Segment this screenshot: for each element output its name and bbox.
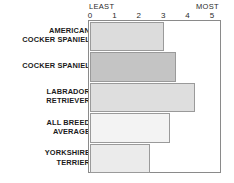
category-label-3: ALL BREEDAVERAGE <box>0 118 90 137</box>
category-label-line: AVERAGE <box>0 127 90 137</box>
category-label-1: COCKER SPANIEL <box>0 61 90 71</box>
category-label-line: TERRIER <box>0 158 90 168</box>
category-label-2: LABRADORRETRIEVER <box>0 87 90 106</box>
bar-3 <box>90 113 170 143</box>
x-tick-2: 2 <box>133 11 145 20</box>
x-tick-3: 3 <box>157 11 169 20</box>
bar-chart: LEAST MOST 012345 AMERICANCOCKER SPANIEL… <box>0 0 234 183</box>
x-tick-5: 5 <box>206 11 218 20</box>
category-label-line: ALL BREED <box>0 118 90 128</box>
category-label-line: LABRADOR <box>0 87 90 97</box>
bars-container <box>89 21 220 172</box>
x-tick-1: 1 <box>108 11 120 20</box>
bar-1 <box>90 52 176 82</box>
bar-2 <box>90 83 195 113</box>
bar-4 <box>90 144 150 174</box>
x-tick-0: 0 <box>84 11 96 20</box>
category-label-line: AMERICAN <box>0 26 90 36</box>
category-label-line: COCKER SPANIEL <box>0 61 90 71</box>
plot-frame <box>88 20 221 173</box>
category-label-0: AMERICANCOCKER SPANIEL <box>0 26 90 45</box>
category-label-line: RETRIEVER <box>0 96 90 106</box>
x-tick-4: 4 <box>182 11 194 20</box>
category-label-line: YORKSHIRE <box>0 148 90 158</box>
category-label-4: YORKSHIRETERRIER <box>0 148 90 167</box>
bar-0 <box>90 22 164 52</box>
axis-least-label: LEAST <box>89 2 114 11</box>
category-label-line: COCKER SPANIEL <box>0 35 90 45</box>
axis-most-label: MOST <box>196 2 219 11</box>
